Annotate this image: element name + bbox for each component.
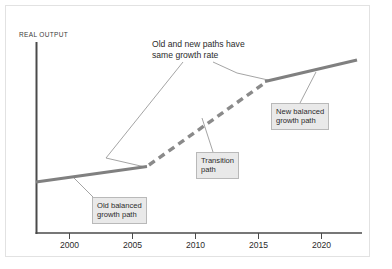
callout-transition-line2: path	[201, 165, 234, 174]
callout-new-line1: New balanced	[276, 107, 324, 116]
series-new-balanced-growth-path	[265, 60, 357, 82]
leader-line-new-path	[300, 72, 316, 103]
leader-line-growth-note-left	[106, 62, 183, 167]
x-tick-label-2005: 2005	[123, 240, 142, 250]
callout-old-line1: Old balanced	[97, 201, 142, 210]
series-old-balanced-growth-path	[36, 167, 147, 183]
leader-lines	[72, 62, 316, 200]
x-tick-label-2020: 2020	[312, 240, 331, 250]
leader-line-growth-note-right	[213, 62, 268, 80]
callout-transition-path: Transition path	[196, 152, 239, 179]
growth-rate-note: Old and new paths have same growth rate	[152, 39, 245, 60]
leader-line-transition	[202, 118, 213, 152]
x-tick-label-2000: 2000	[60, 240, 79, 250]
chart-figure: REAL OUTPUT Old and new paths have same …	[0, 0, 392, 269]
callout-new-line2: growth path	[276, 116, 324, 125]
callout-old-balanced-growth-path: Old balanced growth path	[92, 197, 147, 224]
callout-old-line2: growth path	[97, 210, 142, 219]
x-tick-label-2010: 2010	[186, 240, 205, 250]
x-tick-label-2015: 2015	[249, 240, 268, 250]
x-axis-ticks	[70, 233, 322, 239]
growth-rate-note-line2: same growth rate	[152, 50, 245, 61]
callout-new-balanced-growth-path: New balanced growth path	[271, 103, 329, 130]
callout-transition-line1: Transition	[201, 156, 234, 165]
growth-rate-note-line1: Old and new paths have	[152, 39, 245, 50]
y-axis-label: REAL OUTPUT	[19, 31, 68, 38]
